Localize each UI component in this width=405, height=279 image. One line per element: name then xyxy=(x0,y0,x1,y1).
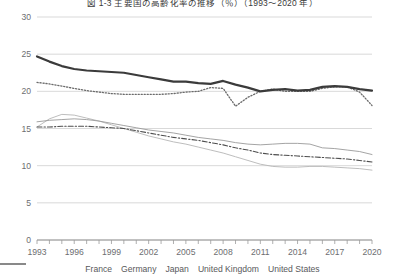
y-axis-tick-label: 0 xyxy=(26,235,31,245)
x-axis-tick-label: 2002 xyxy=(139,247,158,257)
legend-label: Japan xyxy=(165,265,188,274)
x-axis-tick-label: 1996 xyxy=(65,247,84,257)
y-axis-tick-label: 25 xyxy=(21,49,31,59)
series-line-united-kingdom xyxy=(37,119,372,155)
series-line-japan xyxy=(37,56,372,91)
x-axis-tick-label: 2008 xyxy=(214,247,233,257)
legend-label: United Kingdom xyxy=(198,265,259,274)
x-axis-tick-label: 2005 xyxy=(176,247,195,257)
legend-item-germany[interactable]: Germany xyxy=(121,265,156,274)
legend-label: United States xyxy=(268,265,320,274)
y-axis-tick-label: 15 xyxy=(21,124,31,134)
x-axis-tick-label: 1993 xyxy=(27,247,46,257)
series-line-united-states xyxy=(37,114,372,170)
x-axis-tick-label: 2020 xyxy=(362,247,381,257)
x-axis-tick-label: 1999 xyxy=(102,247,121,257)
x-axis-tick-label: 2017 xyxy=(325,247,344,257)
x-axis-tick-label: 2011 xyxy=(251,247,270,257)
chart-container: 図 1-3 主要国の高齢化率の推移（％）（1993～2020 年） 051015… xyxy=(0,0,405,279)
legend-item-france[interactable]: France xyxy=(85,265,112,274)
legend-item-japan[interactable]: Japan xyxy=(165,265,188,274)
y-axis-tick-label: 10 xyxy=(21,161,31,171)
y-axis-tick-label: 30 xyxy=(21,12,31,22)
line-chart-plot: 0510152025301993199619992002200520082011… xyxy=(0,0,405,260)
y-axis-tick-label: 20 xyxy=(21,86,31,96)
x-axis-tick-label: 2014 xyxy=(288,247,307,257)
legend-item-united-kingdom[interactable]: United Kingdom xyxy=(198,265,259,274)
legend-label: Germany xyxy=(121,265,156,274)
y-axis-tick-label: 5 xyxy=(26,198,31,208)
chart-legend: FranceGermanyJapanUnited KingdomUnited S… xyxy=(0,260,405,279)
legend-label: France xyxy=(85,265,112,274)
legend-swatch-solid xyxy=(0,260,26,268)
series-line-france xyxy=(37,126,372,162)
legend-item-united-states[interactable]: United States xyxy=(268,265,320,274)
